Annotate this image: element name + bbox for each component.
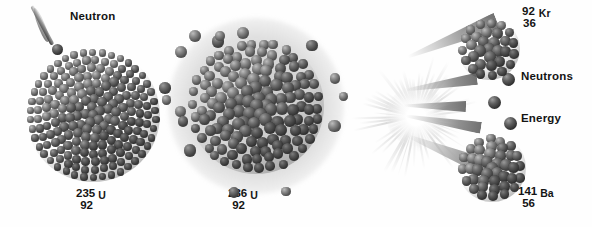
u236-atomic-number: 92 bbox=[232, 200, 245, 212]
nucleon bbox=[27, 116, 35, 124]
nucleon bbox=[43, 141, 51, 149]
nucleon bbox=[309, 124, 319, 134]
nucleon bbox=[27, 107, 35, 115]
u235-mass-number: 235 bbox=[76, 188, 95, 200]
nucleon bbox=[144, 111, 152, 119]
nucleon bbox=[34, 115, 42, 123]
nucleon bbox=[279, 160, 288, 169]
nucleon bbox=[90, 174, 98, 182]
isotope-label-ba141: 141 56 Ba bbox=[518, 186, 554, 209]
nucleon bbox=[476, 69, 485, 78]
nucleon bbox=[140, 93, 148, 101]
nucleon bbox=[144, 142, 152, 150]
nucleon bbox=[139, 72, 146, 79]
neutron-trail-wide bbox=[31, 6, 51, 43]
nucleon bbox=[232, 160, 242, 170]
nucleon bbox=[210, 151, 219, 160]
neutrons-label: Neutrons bbox=[521, 70, 573, 82]
nucleon bbox=[131, 91, 140, 100]
nucleon bbox=[304, 92, 314, 102]
nucleon bbox=[31, 134, 39, 142]
nucleon bbox=[34, 106, 42, 114]
nucleon bbox=[80, 173, 88, 181]
nucleon bbox=[140, 130, 148, 138]
energy-label: Energy bbox=[521, 112, 561, 124]
nucleon bbox=[500, 189, 510, 199]
nucleon bbox=[314, 92, 323, 101]
nucleon bbox=[220, 157, 229, 166]
ejected-nucleon bbox=[330, 73, 340, 83]
kr92-atomic-number: 36 bbox=[523, 18, 536, 30]
nucleon bbox=[131, 157, 139, 165]
nucleon bbox=[54, 163, 61, 170]
nucleon bbox=[39, 133, 47, 141]
nucleon bbox=[497, 67, 506, 76]
nucleon bbox=[56, 155, 64, 163]
nucleon bbox=[305, 134, 314, 143]
nucleon bbox=[298, 144, 307, 153]
nucleon bbox=[91, 166, 99, 174]
ejected-nucleon bbox=[162, 95, 171, 104]
nucleon bbox=[134, 100, 143, 109]
krypton-92-nucleus bbox=[458, 18, 520, 80]
ejected-nucleon bbox=[229, 187, 240, 198]
nucleon bbox=[72, 163, 80, 171]
nucleon bbox=[205, 125, 216, 136]
nucleon bbox=[40, 150, 48, 158]
nucleon bbox=[117, 55, 124, 62]
nucleon bbox=[109, 162, 117, 170]
nucleon bbox=[47, 157, 55, 165]
nucleon bbox=[42, 112, 51, 121]
nucleon bbox=[108, 171, 116, 179]
nucleon bbox=[124, 163, 132, 171]
neutron-label: Neutron bbox=[70, 10, 115, 22]
nucleon bbox=[254, 163, 264, 173]
ba141-atomic-number: 56 bbox=[522, 198, 535, 210]
nucleon bbox=[509, 49, 519, 59]
nucleon bbox=[81, 157, 90, 166]
nucleon bbox=[71, 171, 79, 179]
ejected-nucleon bbox=[159, 82, 170, 93]
nucleon bbox=[268, 40, 277, 49]
nucleon bbox=[265, 161, 275, 171]
nucleon bbox=[116, 148, 125, 157]
nucleon bbox=[70, 51, 78, 59]
nucleon bbox=[488, 191, 498, 201]
ejected-nucleon bbox=[328, 120, 340, 132]
ejected-nucleon bbox=[175, 46, 187, 58]
nucleon bbox=[58, 104, 68, 114]
nucleon bbox=[458, 46, 467, 55]
nucleon bbox=[512, 151, 522, 161]
isotope-label-u235: 235 92 U bbox=[76, 188, 106, 211]
nucleon bbox=[151, 107, 159, 115]
nucleon bbox=[290, 125, 301, 136]
nucleon bbox=[43, 122, 52, 131]
nucleon bbox=[289, 151, 299, 161]
u235-atomic-number: 92 bbox=[80, 200, 93, 212]
u235-symbol: U bbox=[98, 189, 106, 201]
nucleon bbox=[143, 102, 151, 110]
kr92-symbol: Kr bbox=[539, 7, 551, 19]
nucleon bbox=[100, 164, 108, 172]
uranium-235-nucleus bbox=[26, 48, 160, 182]
nucleon bbox=[508, 162, 519, 173]
nucleon bbox=[31, 88, 39, 96]
ba141-mass-number: 141 bbox=[518, 186, 537, 198]
nucleon bbox=[89, 49, 97, 57]
isotope-label-kr92: 92 36 Kr bbox=[521, 6, 550, 29]
ejected-nucleon bbox=[339, 92, 348, 101]
nucleon bbox=[304, 104, 314, 114]
nucleon bbox=[35, 80, 43, 88]
nucleon bbox=[28, 98, 36, 106]
nucleon bbox=[108, 52, 116, 60]
nucleon bbox=[117, 168, 124, 175]
nucleon bbox=[150, 125, 158, 133]
ba141-symbol: Ba bbox=[540, 187, 553, 199]
nucleon bbox=[298, 59, 307, 68]
u236-symbol: U bbox=[250, 189, 258, 201]
nucleon bbox=[236, 143, 247, 154]
emitted-neutron-3 bbox=[504, 117, 517, 130]
nucleon bbox=[289, 61, 299, 71]
nucleon bbox=[189, 87, 198, 96]
nucleon bbox=[243, 163, 253, 173]
